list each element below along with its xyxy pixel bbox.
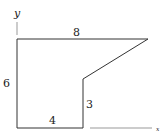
shape-diagram: y x 8 6 3 4 xyxy=(0,0,160,133)
dimension-left: 6 xyxy=(3,77,10,90)
polygon-shape xyxy=(17,39,148,128)
dimension-bottom: 4 xyxy=(49,114,56,127)
dimension-top: 8 xyxy=(73,26,80,39)
x-axis-label: x xyxy=(156,125,160,132)
y-axis-label: y xyxy=(13,7,21,20)
dimension-inner-vertical: 3 xyxy=(86,98,93,111)
